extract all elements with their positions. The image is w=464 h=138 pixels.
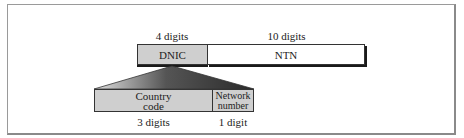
network-number-label-line2: number (218, 101, 249, 111)
country-code-label-line1: Country (135, 91, 171, 101)
network-number-label-line1: Network (216, 91, 251, 101)
country-code-label-line2: code (143, 101, 164, 111)
country-code-digits-label: 3 digits (94, 116, 213, 128)
network-number-digits-label: 1 digit (212, 116, 254, 128)
country-code-field: Country code (94, 89, 213, 112)
network-number-field: Network number (212, 89, 254, 112)
